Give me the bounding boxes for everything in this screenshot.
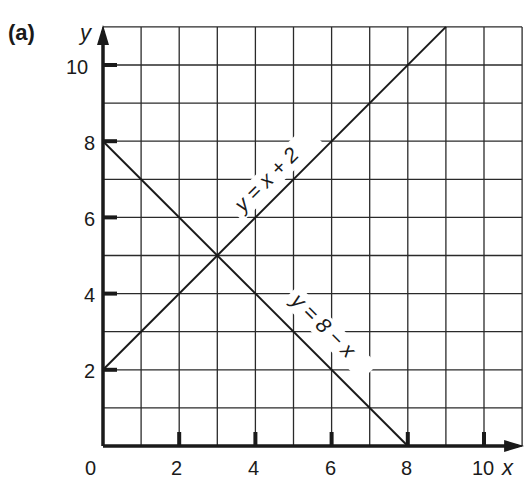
x-tick-0: 0	[85, 457, 96, 479]
svg-text:y = 8 − x: y = 8 − x	[286, 287, 362, 363]
grid	[103, 27, 522, 446]
x-tick-6: 6	[325, 457, 336, 479]
plot-lines	[103, 27, 446, 446]
x-axis-arrow-icon	[504, 440, 524, 452]
y-axis-label: y	[78, 20, 93, 45]
y-axis-arrow-icon	[97, 25, 109, 45]
x-tick-2: 2	[171, 457, 182, 479]
x-tick-10: 10	[472, 457, 494, 479]
panel-label: (a)	[8, 20, 35, 45]
series-line-0	[103, 27, 446, 370]
line-label-8-minus-x: y = 8 − x	[282, 284, 379, 381]
y-tick-2: 2	[84, 360, 95, 382]
y-tick-4: 4	[84, 284, 95, 306]
y-tick-labels: 2 4 6 8 10	[66, 56, 95, 382]
chart: (a) y x 0 2 4 6 8 10 2 4 6 8 10 y = x + …	[0, 0, 526, 497]
y-tick-10: 10	[66, 56, 88, 78]
line-label-x-plus-2: y = x + 2	[225, 125, 322, 222]
axes	[97, 25, 524, 452]
y-tick-8: 8	[84, 132, 95, 154]
y-tick-6: 6	[84, 208, 95, 230]
x-tick-labels: 0 2 4 6 8 10	[85, 457, 494, 479]
x-axis-label: x	[501, 455, 514, 480]
x-tick-4: 4	[248, 457, 259, 479]
x-tick-8: 8	[401, 457, 412, 479]
